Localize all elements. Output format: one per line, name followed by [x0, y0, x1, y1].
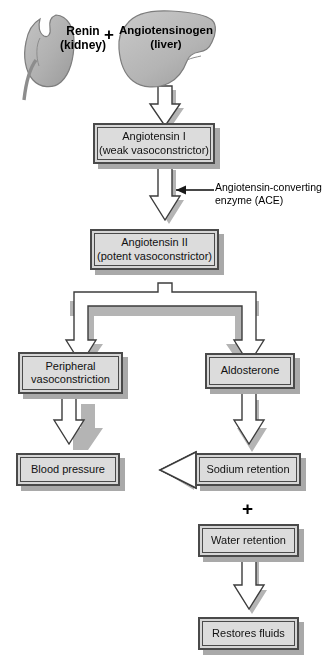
box-blood-pressure[interactable]: Blood pressure — [16, 453, 120, 486]
angiotensinogen-label: Angiotensinogen — [119, 24, 213, 36]
box-angiotensin-2-line1: Angiotensin II — [121, 236, 188, 249]
arrow-peripheral-to-blood-pressure — [54, 396, 84, 444]
box-water-retention-inner: Water retention — [202, 528, 295, 553]
box-sodium-retention[interactable]: Sodium retention — [195, 453, 301, 486]
box-angiotensin-1-inner: Angiotensin I (weak vasoconstrictor) — [97, 127, 211, 160]
box-blood-pressure-line1: Blood pressure — [31, 463, 105, 476]
arrow-water-retention-to-restores-fluids — [234, 557, 264, 609]
plus-sign-top: + — [104, 26, 114, 43]
renin-label: Renin — [66, 24, 99, 38]
box-restores-fluids-line1: Restores fluids — [212, 627, 285, 640]
liver-shape — [113, 8, 218, 96]
box-angiotensin-1-line1: Angiotensin I — [122, 130, 186, 143]
box-peripheral-line1: Peripheral — [45, 360, 95, 373]
liver-label-group: Angiotensinogen (liver) — [118, 24, 214, 52]
arrow-sodium-retention-to-blood-pressure — [160, 452, 196, 488]
ace-line2: enzyme (ACE) — [215, 194, 283, 206]
box-restores-fluids[interactable]: Restores fluids — [198, 617, 299, 650]
box-peripheral-line2: vasoconstriction — [31, 373, 110, 386]
box-angiotensin-2-inner: Angiotensin II (potent vasoconstrictor) — [94, 233, 215, 266]
diagram-canvas: Renin (kidney) + Angiotensinogen (liver)… — [0, 0, 332, 669]
box-angiotensin-1-line2: (weak vasoconstrictor) — [99, 144, 209, 157]
box-aldosterone[interactable]: Aldosterone — [205, 353, 295, 389]
box-angiotensin-1[interactable]: Angiotensin I (weak vasoconstrictor) — [93, 123, 215, 164]
box-aldosterone-inner: Aldosterone — [209, 357, 291, 385]
box-sodium-retention-line1: Sodium retention — [206, 463, 289, 476]
box-blood-pressure-inner: Blood pressure — [20, 457, 116, 482]
box-peripheral-vasoconstriction[interactable]: Peripheral vasoconstriction — [18, 352, 123, 394]
arrow-angiotensin-1-to-2 — [150, 166, 180, 220]
box-aldosterone-line1: Aldosterone — [221, 364, 280, 377]
ace-line1: Angiotensin-converting — [215, 181, 322, 193]
box-sodium-retention-inner: Sodium retention — [199, 457, 297, 482]
kidney-sublabel: (kidney) — [60, 38, 106, 52]
arrow-ace-pointer — [176, 186, 214, 195]
box-water-retention-line1: Water retention — [211, 534, 286, 547]
plus-sign-bottom: + — [242, 499, 253, 518]
box-peripheral-vasoconstriction-inner: Peripheral vasoconstriction — [22, 356, 119, 390]
box-angiotensin-2[interactable]: Angiotensin II (potent vasoconstrictor) — [90, 229, 219, 270]
annotation-ace: Angiotensin-converting enzyme (ACE) — [215, 181, 332, 206]
arrow-aldosterone-to-sodium-retention — [234, 392, 264, 444]
box-restores-fluids-inner: Restores fluids — [202, 621, 295, 646]
box-angiotensin-2-line2: (potent vasoconstrictor) — [97, 250, 212, 263]
box-water-retention[interactable]: Water retention — [198, 524, 299, 557]
liver-sublabel: (liver) — [150, 38, 181, 50]
